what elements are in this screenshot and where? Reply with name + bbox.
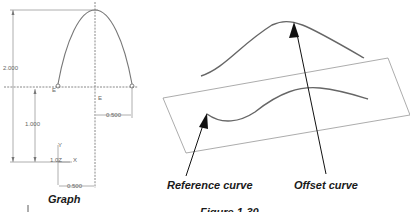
axis-label-x: X — [73, 157, 77, 163]
axis-label-y: Y — [58, 142, 62, 148]
endpoint-left — [56, 84, 60, 88]
reference-curve — [207, 88, 368, 121]
arrow-head-icon — [289, 22, 299, 38]
figure-caption: Figure 1-30 — [200, 206, 260, 212]
label-reference-curve: Reference curve — [167, 179, 253, 191]
graph-caption: Graph — [48, 193, 81, 205]
axis-label-z: 1.0Z — [50, 157, 62, 163]
dimension-arrow-icon — [12, 157, 15, 162]
reference-arrow-line — [186, 122, 204, 176]
dimension-arrow-icon — [12, 10, 15, 15]
point-label-center: E — [98, 95, 102, 101]
label-offset-curve: Offset curve — [294, 179, 358, 191]
dim-label-0500-bottom: 0.500 — [67, 183, 83, 189]
offset-arrow-line — [297, 34, 326, 174]
dimension-arrow-icon — [34, 89, 37, 94]
arrow-head-icon — [199, 113, 208, 129]
diagram-canvas: 2.000 1.000 0.500 0.500 E E Y X 1.0Z Gra… — [0, 0, 410, 212]
point-label-left: E — [52, 87, 56, 93]
dim-label-0500-right: 0.500 — [106, 112, 122, 118]
dimension-arrow-icon — [34, 157, 37, 162]
graph-sketch: 2.000 1.000 0.500 0.500 E E Y X 1.0Z Gra… — [3, 2, 138, 212]
dim-label-2000: 2.000 — [3, 65, 19, 71]
offset-curve — [201, 22, 364, 76]
sketch-plane — [163, 58, 410, 153]
dim-label-1000: 1.000 — [25, 121, 41, 127]
offset-curve-illustration: Reference curve Offset curve Figure 1-30 — [163, 22, 410, 212]
